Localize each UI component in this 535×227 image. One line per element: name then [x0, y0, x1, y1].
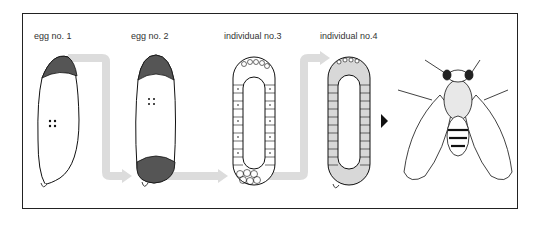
fly-illustration	[398, 60, 512, 180]
individual-4	[328, 57, 370, 188]
process-arrow	[68, 58, 322, 176]
individual-3	[233, 57, 275, 185]
egg-2	[136, 55, 176, 186]
pointer-triangle	[381, 114, 388, 128]
diagram-canvas	[0, 0, 535, 227]
egg-1	[38, 56, 79, 187]
